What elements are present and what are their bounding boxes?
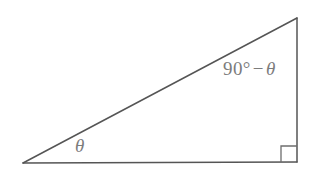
apex-angle-variable: θ	[266, 58, 276, 79]
apex-angle-label: 90°−θ	[223, 59, 276, 78]
triangle-base-edge	[23, 162, 297, 163]
base-angle-label: θ	[75, 136, 84, 155]
triangle-diagram-canvas	[0, 0, 316, 172]
triangle-figure: θ 90°−θ	[0, 0, 316, 172]
degree-symbol-icon: °	[243, 58, 251, 79]
minus-sign-icon: −	[251, 58, 266, 79]
apex-angle-number: 90	[223, 58, 243, 79]
figure-background	[0, 0, 316, 172]
